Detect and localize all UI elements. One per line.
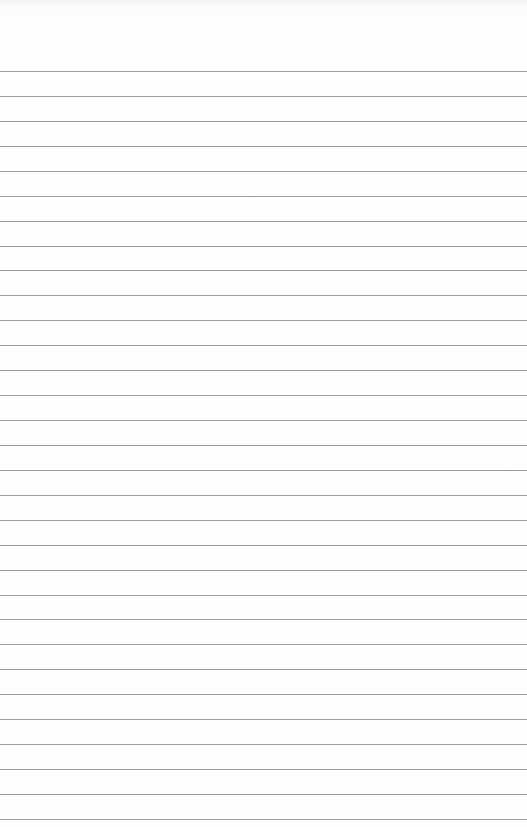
ruled-line: [0, 520, 527, 521]
ruled-line: [0, 570, 527, 571]
ruled-line: [0, 719, 527, 720]
ruled-line: [0, 545, 527, 546]
ruled-line: [0, 146, 527, 147]
ruled-line: [0, 694, 527, 695]
ruled-line: [0, 819, 527, 820]
ruled-line: [0, 769, 527, 770]
ruled-line: [0, 420, 527, 421]
ruled-line: [0, 445, 527, 446]
ruled-line: [0, 96, 527, 97]
ruled-line: [0, 370, 527, 371]
ruled-line: [0, 196, 527, 197]
lined-paper-sheet: [0, 0, 527, 827]
ruled-line: [0, 246, 527, 247]
ruled-line: [0, 495, 527, 496]
ruled-line: [0, 595, 527, 596]
ruled-line: [0, 744, 527, 745]
ruled-line: [0, 295, 527, 296]
ruled-line: [0, 669, 527, 670]
ruled-line: [0, 644, 527, 645]
ruled-line: [0, 794, 527, 795]
ruled-line: [0, 345, 527, 346]
ruled-line: [0, 221, 527, 222]
ruled-line: [0, 270, 527, 271]
ruled-line: [0, 121, 527, 122]
ruled-line: [0, 395, 527, 396]
ruled-line: [0, 470, 527, 471]
ruled-line: [0, 320, 527, 321]
ruled-line: [0, 619, 527, 620]
ruled-line: [0, 171, 527, 172]
ruled-line: [0, 71, 527, 72]
